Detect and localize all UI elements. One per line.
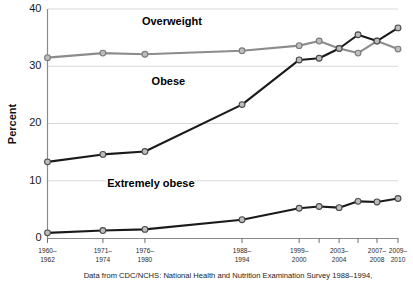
y-tick-label: 10 bbox=[29, 174, 41, 186]
data-point bbox=[100, 228, 106, 234]
series-label-extremely-obese: Extremely obese bbox=[107, 177, 194, 189]
data-point bbox=[316, 55, 322, 61]
data-point bbox=[296, 57, 302, 63]
data-point bbox=[316, 204, 322, 210]
data-point bbox=[142, 149, 148, 155]
x-tick-label: 1974 bbox=[96, 256, 111, 263]
data-point bbox=[100, 152, 106, 158]
x-tick-label: 1994 bbox=[235, 256, 250, 263]
x-tick-label: 1980 bbox=[138, 256, 153, 263]
x-tick-label: 2007– bbox=[368, 247, 387, 254]
data-point bbox=[239, 102, 245, 108]
data-point bbox=[316, 38, 322, 44]
x-tick-label: 2010 bbox=[391, 256, 406, 263]
data-point bbox=[45, 55, 51, 61]
data-point bbox=[100, 50, 106, 56]
chart-figure: 010203040 1960–19621971–19741976–1980198… bbox=[0, 0, 413, 286]
x-tick-label: 2009– bbox=[389, 247, 408, 254]
data-point bbox=[395, 46, 401, 52]
y-tick-label: 40 bbox=[29, 2, 41, 14]
data-point bbox=[355, 50, 361, 56]
data-point bbox=[374, 38, 380, 44]
data-point bbox=[45, 230, 51, 236]
data-point bbox=[395, 25, 401, 31]
x-tick-label: 1960– bbox=[38, 247, 57, 254]
chart-caption: Data from CDC/NCHS: National Health and … bbox=[84, 271, 373, 280]
x-tick-label: 2008 bbox=[370, 256, 385, 263]
y-tick-label: 30 bbox=[29, 59, 41, 71]
x-tick-label: 1988– bbox=[233, 247, 252, 254]
data-point bbox=[336, 205, 342, 211]
y-tick-label: 20 bbox=[29, 116, 41, 128]
x-tick-label: 2000 bbox=[292, 256, 307, 263]
x-tick-label: 1976– bbox=[136, 247, 155, 254]
x-tick-label: 1962 bbox=[40, 256, 55, 263]
series-label-overweight: Overweight bbox=[142, 15, 202, 27]
series-label-obese: Obese bbox=[152, 75, 186, 87]
x-tick-label: 2003– bbox=[330, 247, 349, 254]
data-point bbox=[142, 51, 148, 57]
y-tick-label: 0 bbox=[35, 231, 41, 243]
data-point bbox=[239, 48, 245, 54]
data-point bbox=[296, 205, 302, 211]
data-point bbox=[142, 227, 148, 233]
y-axis-title: Percent bbox=[6, 103, 18, 144]
x-tick-label: 1971– bbox=[94, 247, 113, 254]
data-point bbox=[395, 196, 401, 202]
data-point bbox=[296, 43, 302, 49]
x-tick-label: 2004 bbox=[332, 256, 347, 263]
x-tick-label: 1999– bbox=[290, 247, 309, 254]
obesity-trend-line-chart: 010203040 1960–19621971–19741976–1980198… bbox=[0, 0, 413, 286]
data-point bbox=[355, 32, 361, 38]
data-point bbox=[336, 46, 342, 52]
data-point bbox=[45, 159, 51, 165]
data-point bbox=[239, 217, 245, 223]
chart-background bbox=[0, 0, 413, 286]
data-point bbox=[374, 199, 380, 205]
data-point bbox=[355, 198, 361, 204]
